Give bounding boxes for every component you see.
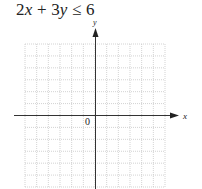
y-axis-arrow-icon bbox=[93, 28, 99, 37]
y-axis-label: y bbox=[92, 18, 97, 27]
x-axis-arrow-icon bbox=[170, 113, 179, 119]
origin-label: 0 bbox=[85, 116, 90, 127]
x-axis-label: x bbox=[182, 111, 187, 121]
coordinate-plane: x y 0 bbox=[0, 0, 202, 189]
